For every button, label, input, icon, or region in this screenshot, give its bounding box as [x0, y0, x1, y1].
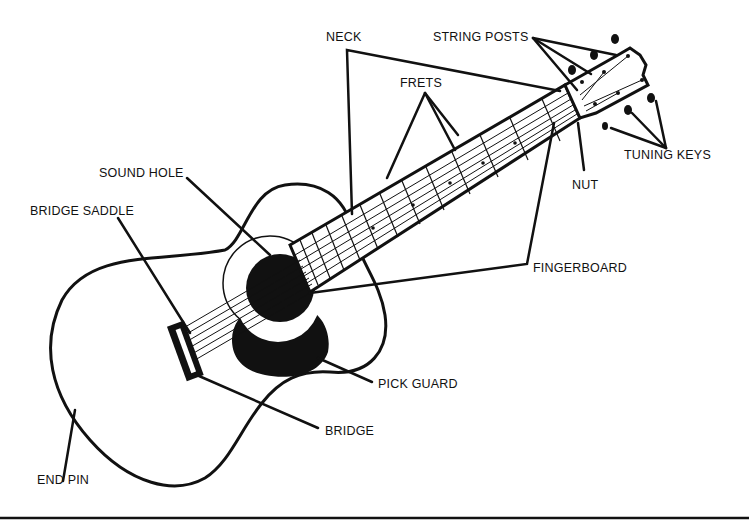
label-bridge-saddle: BRIDGE SADDLE: [30, 204, 134, 218]
label-neck: NECK: [326, 30, 362, 44]
label-sound-hole: SOUND HOLE: [99, 166, 184, 180]
label-pick-guard: PICK GUARD: [378, 377, 458, 391]
label-tuning-keys: TUNING KEYS: [624, 148, 711, 162]
label-fingerboard: FINGERBOARD: [533, 261, 627, 275]
label-end-pin: END PIN: [37, 473, 89, 487]
guitar-diagram: [0, 0, 749, 527]
label-bridge: BRIDGE: [325, 424, 374, 438]
label-string-posts: STRING POSTS: [433, 30, 528, 44]
label-frets: FRETS: [400, 76, 442, 90]
label-nut: NUT: [572, 178, 598, 192]
